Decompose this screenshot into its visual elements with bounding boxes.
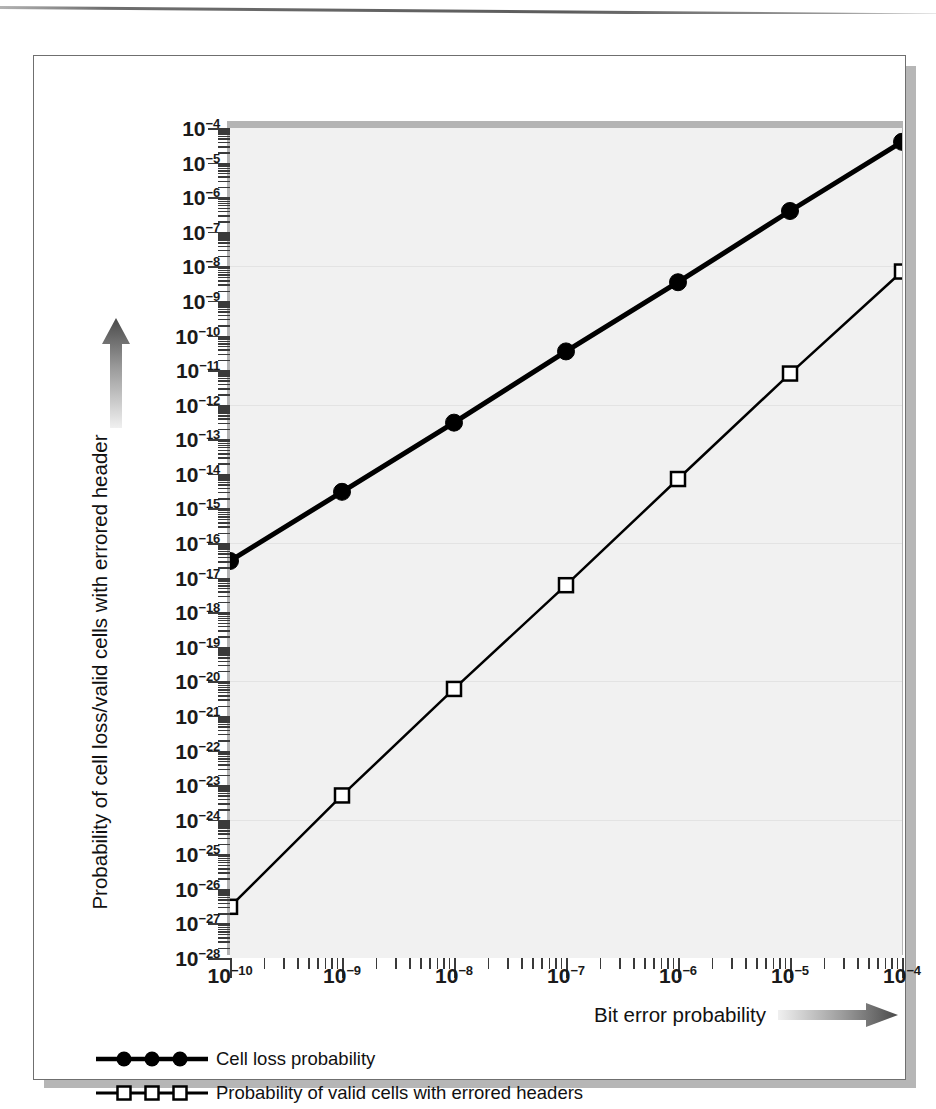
y-tick-label: 10−11 [134, 359, 220, 381]
data-point-open-square [230, 900, 237, 914]
right-gradient-arrow-icon [778, 1002, 898, 1028]
x-tick-label: 10−4 [857, 964, 936, 986]
legend-label: Cell loss probability [216, 1048, 375, 1070]
legend-swatch-open-square [94, 1082, 210, 1104]
y-tick-label: 10−8 [134, 255, 220, 277]
y-tick-label: 10−14 [134, 463, 220, 485]
y-tick-label: 10−5 [134, 152, 220, 174]
data-point-open-square [895, 265, 902, 279]
legend-label: Probability of valid cells with errored … [216, 1082, 583, 1104]
page-rule-line [0, 6, 936, 14]
page-top-rule [0, 4, 936, 14]
data-point-filled-circle [782, 203, 799, 220]
chart-legend: Cell loss probabilityProbability of vali… [94, 1042, 794, 1109]
y-tick-label: 10−18 [134, 601, 220, 623]
legend-swatch-filled-circle [94, 1048, 210, 1070]
y-tick-label: 10−6 [134, 186, 220, 208]
y-tick-label: 10−19 [134, 636, 220, 658]
y-tick-label: 10−12 [134, 394, 220, 416]
x-tick-label: 10−7 [521, 964, 611, 986]
x-tick-label: 10−6 [633, 964, 723, 986]
x-axis-tick-labels: 10−1010−910−810−710−610−510−4 [34, 964, 936, 998]
y-tick-label: 10−16 [134, 532, 220, 554]
x-axis-title-group: Bit error probability [594, 1002, 898, 1028]
data-point-filled-circle [670, 274, 687, 291]
y-tick-label: 10−26 [134, 878, 220, 900]
y-tick-label: 10−22 [134, 740, 220, 762]
x-tick-label: 10−5 [745, 964, 835, 986]
y-tick-label: 10−20 [134, 670, 220, 692]
x-axis-title: Bit error probability [594, 1003, 766, 1027]
data-point-open-square [447, 682, 461, 696]
legend-item: Probability of valid cells with errored … [94, 1076, 794, 1109]
data-point-open-square [559, 578, 573, 592]
figure-frame: 10−410−510−610−710−810−910−1010−1110−121… [33, 55, 906, 1080]
y-tick-label: 10−10 [134, 325, 220, 347]
y-tick-label: 10−13 [134, 428, 220, 450]
y-tick-label: 10−15 [134, 497, 220, 519]
data-point-filled-circle [558, 343, 575, 360]
y-tick-label: 10−24 [134, 809, 220, 831]
legend-item: Cell loss probability [94, 1042, 794, 1076]
data-point-open-square [671, 472, 685, 486]
plot-area [230, 128, 902, 958]
data-point-open-square [783, 367, 797, 381]
y-tick-label: 10−25 [134, 843, 220, 865]
data-point-filled-circle [446, 414, 463, 431]
y-tick-label: 10−21 [134, 705, 220, 727]
plot-series-svg [230, 128, 902, 958]
y-tick-label: 10−9 [134, 290, 220, 312]
x-tick-label: 10−10 [185, 964, 275, 986]
y-tick-label: 10−4 [134, 117, 220, 139]
x-tick-label: 10−9 [297, 964, 387, 986]
y-axis-tick-labels: 10−410−510−610−710−810−910−1010−1110−121… [130, 128, 220, 958]
y-tick-label: 10−17 [134, 567, 220, 589]
y-tick-label: 10−7 [134, 221, 220, 243]
y-axis-title: Probability of cell loss/valid cells wit… [88, 392, 112, 952]
data-point-open-square [335, 788, 349, 802]
y-tick-label: 10−23 [134, 774, 220, 796]
y-tick-label: 10−27 [134, 912, 220, 934]
x-tick-label: 10−8 [409, 964, 499, 986]
data-point-filled-circle [334, 483, 351, 500]
